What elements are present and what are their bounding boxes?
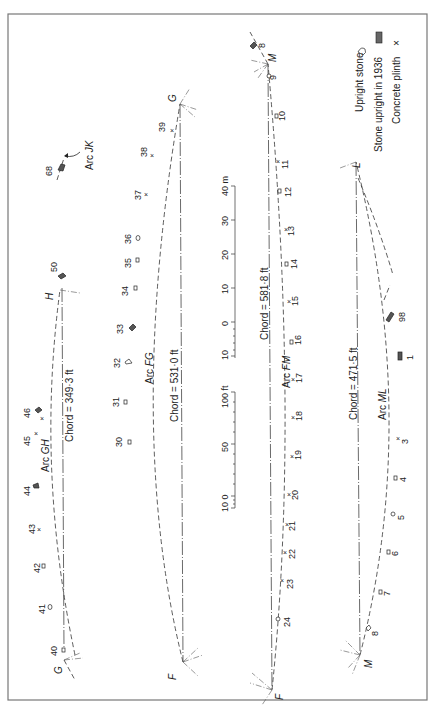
stone-label-40: 40: [49, 646, 59, 656]
stone-label-3: 3: [400, 439, 410, 444]
arc-fm-group: M F 8 9 10 × 11 12 × 13 14 × 15 Chord = …: [250, 32, 304, 705]
stone-label-32: 32: [112, 358, 122, 368]
stone-label-22: 22: [287, 549, 297, 559]
arc-fm-label: Arc FM: [281, 355, 292, 388]
stone-label-9: 9: [268, 75, 278, 80]
stone-50-icon: [58, 273, 66, 279]
arc-fm-chord-label: Chord = 581·8 ft: [259, 267, 270, 340]
stone-4-icon: [394, 476, 397, 480]
stone-label-45: 45: [22, 436, 32, 446]
point-label-f-right: F: [274, 693, 285, 700]
stone-42-icon: [42, 564, 45, 568]
stone-label-41: 41: [37, 604, 47, 614]
legend-stone-upright-1936: Stone upright in 1936: [373, 56, 384, 152]
stone-label-34: 34: [120, 286, 130, 296]
stone-upright-1936-legend-icon: [376, 32, 382, 43]
arc-fg-chord: [180, 104, 183, 662]
svg-text:×: ×: [40, 415, 44, 422]
stone-5-icon: [391, 512, 395, 516]
scale-m-tick-10-left: 10: [220, 350, 230, 360]
stone-8-lower-icon: [366, 625, 371, 631]
svg-text:×: ×: [144, 191, 148, 198]
concrete-plinth-legend-icon: ×: [391, 40, 402, 46]
stone-label-11: 11: [280, 160, 290, 169]
stone-44-icon: [33, 483, 39, 488]
stone-46-icon: [35, 407, 42, 413]
arc-ml-label: Arc ML: [377, 388, 388, 420]
svg-text:×: ×: [170, 127, 174, 134]
stone-label-8-upper: 8: [257, 43, 267, 48]
stone-label-14: 14: [289, 259, 299, 269]
stone-35-icon: [136, 258, 139, 262]
stone-label-6: 6: [390, 551, 400, 556]
scale-m-tick-20: 20: [220, 250, 230, 260]
arc-fg-chord-label: Chord = 531·0 ft: [169, 349, 180, 422]
stone-label-30: 30: [114, 437, 124, 447]
stone-41-icon: [48, 605, 52, 610]
stone-34-icon: [134, 286, 137, 290]
stone-label-46: 46: [22, 408, 32, 418]
svg-text:×: ×: [280, 577, 284, 584]
stone-14-icon: [285, 262, 288, 266]
stone-label-39: 39: [157, 122, 167, 132]
point-label-g-upper: G: [167, 94, 178, 102]
stone-label-35: 35: [123, 258, 133, 268]
scale-ft-tick-10-0: 10 0: [220, 494, 230, 512]
stone-label-7: 7: [382, 591, 392, 596]
stone-label-16: 16: [293, 335, 303, 345]
arc-gh-chord: [62, 288, 64, 650]
stone-label-10: 10: [277, 111, 287, 121]
scale-ft-tick-50: 50: [220, 442, 230, 452]
svg-text:×: ×: [37, 526, 41, 533]
arc-jk-group: 68 Arc JK: [44, 139, 95, 180]
point-label-h: H: [44, 292, 55, 300]
stone-label-20: 20: [290, 490, 300, 500]
arc-gh-group: 50 H 46 × × 45 44 Arc GH Chord = 349·3 f…: [22, 262, 83, 680]
arc-ml-group: L M Chord = 471·5 ft Arc ML 98 1 × 3 4 5…: [340, 162, 415, 675]
arc-gh-chord-label: Chord = 349·3 ft: [64, 369, 75, 442]
stone-label-8-lower: 8: [370, 631, 380, 636]
legend: Upright stone Stone upright in 1936 × Co…: [354, 32, 402, 152]
scale-ft-tick-100: 100 ft: [220, 385, 230, 408]
stone-label-98: 98: [397, 312, 407, 322]
stone-40-icon: [62, 648, 65, 652]
figure-frame: [8, 14, 427, 700]
stone-label-19: 19: [293, 450, 303, 460]
stone-label-23: 23: [285, 579, 295, 589]
stone-label-15: 15: [290, 296, 300, 306]
point-label-l: L: [351, 162, 362, 168]
point-label-m-lower: M: [363, 659, 374, 668]
scale-m-tick-0: 0: [220, 321, 230, 326]
arc-ml-chord-label: Chord = 471·5 ft: [348, 347, 359, 420]
point-label-m-upper: M: [267, 53, 278, 62]
stone-label-4: 4: [398, 477, 408, 482]
stone-label-13: 13: [286, 226, 296, 236]
arc-jk-label: Arc JK: [84, 139, 95, 170]
stone-label-17: 17: [294, 373, 304, 383]
stone-32-icon: [125, 359, 132, 364]
point-label-g-lower: G: [53, 666, 64, 674]
scale-m-tick-10: 10: [220, 284, 230, 294]
point-label-f-left: F: [167, 673, 178, 680]
svg-text:×: ×: [34, 430, 38, 437]
stone-1-icon: [398, 352, 402, 360]
stone-label-42: 42: [32, 563, 42, 573]
scale-feet: 10 0 50 100 ft: [220, 385, 235, 512]
scale-m-tick-40: 40 m: [220, 176, 230, 196]
stone-98-icon: [386, 312, 394, 322]
scale-metres: 10 0 10 20 30 40 m: [220, 176, 235, 360]
stone-label-43: 43: [27, 524, 37, 534]
stone-30-icon: [128, 440, 131, 444]
stone-31-icon: [124, 400, 127, 404]
stone-label-50: 50: [49, 262, 59, 272]
stone-label-36: 36: [123, 234, 133, 244]
arc-fg-label: Arc FG: [144, 352, 155, 384]
stone-label-31: 31: [111, 397, 121, 407]
stone-33-icon: [129, 324, 136, 331]
arc-gh-label: Arc GH: [40, 438, 51, 472]
stone-label-1: 1: [405, 355, 415, 360]
stone-label-68: 68: [44, 166, 54, 176]
survey-plan-figure: 68 Arc JK 50 H 46 × × 45 44 Arc GH Chord…: [0, 0, 435, 717]
arc-fm-chord: [268, 64, 272, 690]
stone-68-hatched-icon: [58, 164, 65, 171]
